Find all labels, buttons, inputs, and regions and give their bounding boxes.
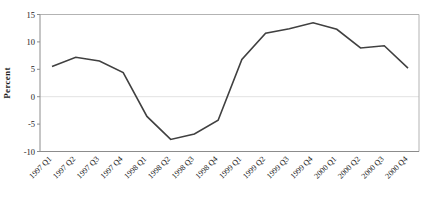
y-tick-label: 0 <box>31 92 35 102</box>
y-tick-label: -10 <box>24 147 35 157</box>
x-tick-label: 1997 Q3 <box>75 155 101 181</box>
x-tick-label: 2000 Q2 <box>336 155 362 181</box>
x-tick-label: 1998 Q4 <box>194 155 220 181</box>
y-axis-title: Percent <box>2 67 12 98</box>
line-chart-figure: 151050-5-101997 Q11997 Q21997 Q31997 Q41… <box>0 0 427 198</box>
x-tick-label: 2000 Q3 <box>360 155 386 181</box>
chart-canvas: 151050-5-101997 Q11997 Q21997 Q31997 Q41… <box>0 0 427 198</box>
x-tick-label: 1999 Q3 <box>265 155 291 181</box>
x-tick-label: 2000 Q4 <box>383 155 409 181</box>
data-line <box>52 23 408 140</box>
x-tick-label: 2000 Q1 <box>312 155 338 181</box>
y-tick-label: -5 <box>28 119 35 129</box>
x-tick-label: 1999 Q2 <box>241 155 267 181</box>
y-tick-label: 10 <box>27 37 36 47</box>
x-tick-label: 1997 Q1 <box>27 155 53 181</box>
x-tick-label: 1998 Q1 <box>122 155 148 181</box>
x-tick-label: 1998 Q3 <box>170 155 196 181</box>
x-tick-label: 1999 Q4 <box>288 155 314 181</box>
x-tick-label: 1998 Q2 <box>146 155 172 181</box>
x-tick-label: 1999 Q1 <box>217 155 243 181</box>
x-tick-label: 1997 Q4 <box>99 155 125 181</box>
y-tick-label: 15 <box>27 10 36 20</box>
y-tick-label: 5 <box>31 64 35 74</box>
x-tick-label: 1997 Q2 <box>51 155 77 181</box>
